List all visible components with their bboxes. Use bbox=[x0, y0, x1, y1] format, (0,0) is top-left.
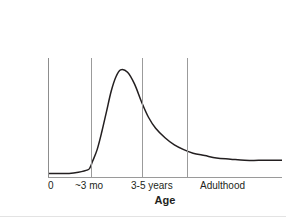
y-axis-line bbox=[48, 58, 49, 177]
prevalence-curve bbox=[48, 58, 282, 177]
x-tick-label-3-5-years: 3-5 years bbox=[131, 179, 173, 192]
chart-figure: Prevalence of acute falciparum malaria w… bbox=[0, 0, 286, 221]
x-axis-line bbox=[48, 177, 282, 178]
divider-3-5-years bbox=[142, 58, 143, 177]
plot-area bbox=[48, 58, 282, 177]
x-tick-label-3-mo: ~3 mo bbox=[75, 179, 103, 192]
prevalence-curve-path bbox=[48, 70, 282, 174]
x-tick-label-adulthood: Adulthood bbox=[200, 179, 245, 192]
divider-adulthood bbox=[187, 58, 188, 177]
x-axis-title: Age bbox=[48, 194, 282, 206]
bottom-divider bbox=[0, 216, 286, 217]
divider-3-mo bbox=[91, 58, 92, 177]
x-tick-label-0: 0 bbox=[48, 179, 54, 192]
